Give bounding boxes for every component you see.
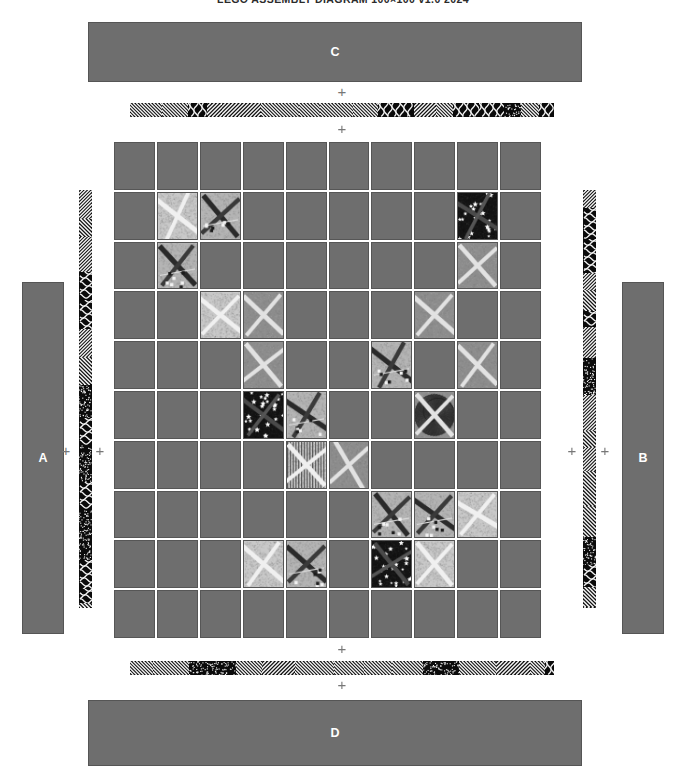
plain-tile[interactable] — [371, 291, 412, 339]
plain-tile[interactable] — [414, 192, 455, 240]
plain-tile[interactable] — [371, 391, 412, 439]
aerial-tile[interactable] — [414, 391, 455, 439]
plain-tile[interactable] — [114, 441, 155, 489]
plain-tile[interactable] — [114, 242, 155, 290]
plain-tile[interactable] — [371, 192, 412, 240]
plain-tile[interactable] — [157, 391, 198, 439]
plain-tile[interactable] — [200, 341, 241, 389]
plain-tile[interactable] — [500, 391, 541, 439]
plain-tile[interactable] — [329, 590, 370, 638]
aerial-tile[interactable] — [243, 540, 284, 588]
plain-tile[interactable] — [414, 590, 455, 638]
plain-tile[interactable] — [114, 291, 155, 339]
plain-tile[interactable] — [286, 242, 327, 290]
plain-tile[interactable] — [286, 192, 327, 240]
aerial-tile[interactable] — [243, 291, 284, 339]
plain-tile[interactable] — [200, 540, 241, 588]
plain-tile[interactable] — [243, 142, 284, 190]
plain-tile[interactable] — [114, 142, 155, 190]
aerial-tile[interactable] — [286, 540, 327, 588]
plain-tile[interactable] — [371, 242, 412, 290]
plain-tile[interactable] — [243, 441, 284, 489]
plain-tile[interactable] — [500, 540, 541, 588]
plain-tile[interactable] — [286, 291, 327, 339]
plain-tile[interactable] — [457, 540, 498, 588]
plain-tile[interactable] — [329, 491, 370, 539]
aerial-tile[interactable] — [286, 391, 327, 439]
aerial-tile[interactable] — [457, 242, 498, 290]
aerial-tile[interactable] — [457, 192, 498, 240]
aerial-tile[interactable] — [200, 192, 241, 240]
plain-tile[interactable] — [286, 341, 327, 389]
plain-tile[interactable] — [157, 590, 198, 638]
plain-tile[interactable] — [329, 242, 370, 290]
plain-tile[interactable] — [243, 590, 284, 638]
plain-tile[interactable] — [329, 142, 370, 190]
plain-tile[interactable] — [457, 142, 498, 190]
plain-tile[interactable] — [157, 540, 198, 588]
plain-tile[interactable] — [329, 192, 370, 240]
plain-tile[interactable] — [500, 491, 541, 539]
plain-tile[interactable] — [329, 291, 370, 339]
plain-tile[interactable] — [414, 341, 455, 389]
plain-tile[interactable] — [286, 142, 327, 190]
plain-tile[interactable] — [500, 142, 541, 190]
plain-tile[interactable] — [329, 391, 370, 439]
plain-tile[interactable] — [414, 441, 455, 489]
plain-tile[interactable] — [200, 441, 241, 489]
plain-tile[interactable] — [114, 341, 155, 389]
plain-tile[interactable] — [157, 142, 198, 190]
plain-tile[interactable] — [243, 491, 284, 539]
aerial-tile[interactable] — [243, 391, 284, 439]
aerial-tile[interactable] — [200, 291, 241, 339]
aerial-tile[interactable] — [414, 291, 455, 339]
plain-tile[interactable] — [200, 590, 241, 638]
plain-tile[interactable] — [457, 441, 498, 489]
plain-tile[interactable] — [457, 590, 498, 638]
plain-tile[interactable] — [243, 192, 284, 240]
aerial-tile[interactable] — [371, 491, 412, 539]
plain-tile[interactable] — [457, 291, 498, 339]
aerial-tile[interactable] — [286, 441, 327, 489]
plain-tile[interactable] — [286, 491, 327, 539]
plain-tile[interactable] — [114, 590, 155, 638]
plain-tile[interactable] — [500, 341, 541, 389]
plain-tile[interactable] — [200, 142, 241, 190]
plain-tile[interactable] — [157, 491, 198, 539]
plain-tile[interactable] — [114, 391, 155, 439]
plain-tile[interactable] — [243, 242, 284, 290]
aerial-tile[interactable] — [457, 491, 498, 539]
plain-tile[interactable] — [500, 291, 541, 339]
plain-tile[interactable] — [500, 242, 541, 290]
aerial-tile[interactable] — [414, 491, 455, 539]
plain-tile[interactable] — [371, 142, 412, 190]
plain-tile[interactable] — [414, 142, 455, 190]
plain-tile[interactable] — [500, 192, 541, 240]
plain-tile[interactable] — [329, 341, 370, 389]
aerial-tile[interactable] — [157, 242, 198, 290]
plain-tile[interactable] — [200, 242, 241, 290]
aerial-tile[interactable] — [157, 192, 198, 240]
plain-tile[interactable] — [414, 242, 455, 290]
aerial-tile[interactable] — [457, 341, 498, 389]
plain-tile[interactable] — [500, 590, 541, 638]
aerial-tile[interactable] — [414, 540, 455, 588]
aerial-tile[interactable] — [329, 441, 370, 489]
plain-tile[interactable] — [114, 192, 155, 240]
plain-tile[interactable] — [286, 590, 327, 638]
plain-tile[interactable] — [457, 391, 498, 439]
plain-tile[interactable] — [157, 341, 198, 389]
aerial-tile[interactable] — [371, 540, 412, 588]
plain-tile[interactable] — [371, 441, 412, 489]
plain-tile[interactable] — [157, 441, 198, 489]
plain-tile[interactable] — [500, 441, 541, 489]
plain-tile[interactable] — [200, 491, 241, 539]
plain-tile[interactable] — [329, 540, 370, 588]
plain-tile[interactable] — [114, 540, 155, 588]
plain-tile[interactable] — [371, 590, 412, 638]
aerial-tile[interactable] — [371, 341, 412, 389]
plain-tile[interactable] — [114, 491, 155, 539]
aerial-tile[interactable] — [243, 341, 284, 389]
plain-tile[interactable] — [157, 291, 198, 339]
plain-tile[interactable] — [200, 391, 241, 439]
